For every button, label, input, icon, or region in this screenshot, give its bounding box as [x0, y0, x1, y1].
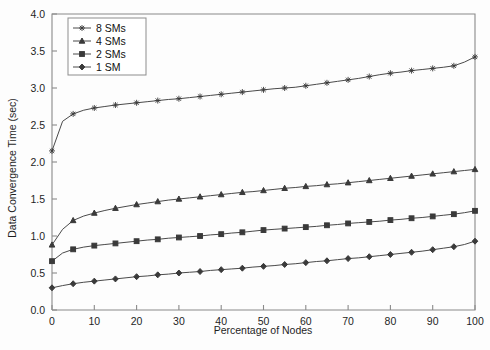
x-tick-label: 10	[88, 315, 100, 327]
x-tick-label: 90	[427, 315, 439, 327]
legend-label: 2 SMs	[96, 48, 126, 60]
line-chart: 0102030405060708090100 0.00.51.01.52.02.…	[0, 0, 490, 350]
x-tick-label: 70	[342, 315, 354, 327]
y-tick-label: 3.5	[30, 45, 45, 57]
x-tick-label: 0	[49, 315, 55, 327]
y-tick-label: 1.0	[30, 230, 45, 242]
x-tick-label: 30	[173, 315, 185, 327]
x-tick-label: 80	[385, 315, 397, 327]
y-axis-ticks: 0.00.51.01.52.02.53.03.54.0	[30, 8, 57, 316]
x-tick-label: 100	[466, 315, 484, 327]
series-group	[49, 54, 478, 291]
chart-legend: 8 SMs4 SMs2 SMs1 SM	[68, 18, 146, 75]
y-tick-label: 3.0	[30, 82, 45, 94]
y-tick-label: 0.5	[30, 267, 45, 279]
series-markers	[50, 208, 478, 263]
figure-container: 0102030405060708090100 0.00.51.01.52.02.…	[0, 0, 490, 350]
series-4-sms	[49, 166, 478, 247]
legend-label: 8 SMs	[96, 22, 126, 34]
y-axis-title: Data Convergence Time (sec)	[6, 98, 18, 237]
x-tick-label: 20	[131, 315, 143, 327]
legend-label: 4 SMs	[96, 35, 126, 47]
y-tick-label: 0.0	[30, 304, 45, 316]
y-tick-label: 4.0	[30, 8, 45, 20]
y-tick-label: 2.5	[30, 119, 45, 131]
y-tick-label: 1.5	[30, 193, 45, 205]
series-2-sms	[50, 208, 478, 263]
x-axis-title: Percentage of Nodes	[214, 324, 313, 336]
y-tick-label: 2.0	[30, 156, 45, 168]
series-markers	[49, 166, 478, 247]
legend-label: 1 SM	[96, 61, 121, 73]
